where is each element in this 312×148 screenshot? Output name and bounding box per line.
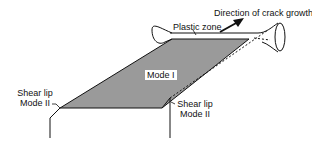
left-shear-lip-line2: Mode II: [15, 98, 55, 108]
right-shear-lip-label: Shear lip Mode II: [174, 99, 216, 119]
left-shear-lip-label: Shear lip Mode II: [15, 88, 55, 108]
left-shear-lip-line1: Shear lip: [15, 88, 55, 98]
direction-label: Direction of crack growth: [214, 8, 312, 18]
direction-arrow-head: [233, 18, 244, 27]
plastic-zone-label: Plastic zone: [173, 22, 222, 32]
plastic-zone-left-lobe: [152, 26, 172, 43]
mode-i-label: Mode I: [145, 70, 177, 80]
right-shear-lip-line1: Shear lip: [174, 99, 216, 109]
left-specimen-edge: [50, 108, 60, 138]
right-shear-lip-line2: Mode II: [174, 109, 216, 119]
direction-arrow-shaft: [220, 22, 238, 32]
plastic-zone-right-lobe: [275, 23, 285, 51]
